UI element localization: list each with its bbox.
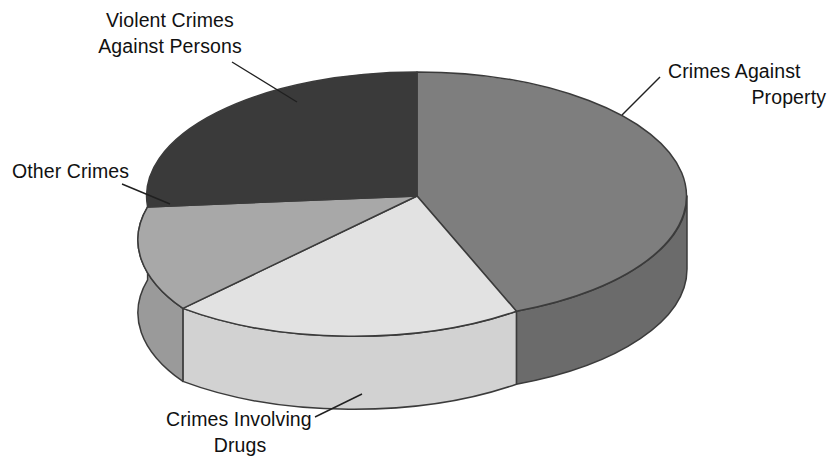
violent-crimes-label-line2: Against Persons xyxy=(98,35,242,57)
violent-crimes-label-line1: Violent Crimes xyxy=(106,9,234,31)
crimes-involving-drugs-label-line2: Drugs xyxy=(214,434,267,456)
callout-label-other-crimes: Other Crimes xyxy=(12,160,129,182)
other-crimes-label-line1: Other Crimes xyxy=(12,160,129,182)
crimes-involving-drugs-label-line1: Crimes Involving xyxy=(166,408,312,430)
crimes-against-property-label-line2: Property xyxy=(752,86,827,108)
callout-label-violent-crimes: Violent Crimes Against Persons xyxy=(98,9,242,57)
pie-chart-figure: Violent Crimes Against Persons Crimes Ag… xyxy=(0,0,836,469)
callout-label-crimes-against-property: Crimes Against Property xyxy=(668,60,826,108)
pie-chart-canvas: Violent Crimes Against Persons Crimes Ag… xyxy=(0,0,836,469)
crimes-against-property-label-line1: Crimes Against xyxy=(668,60,801,82)
leader-line-crimes-against-property xyxy=(622,77,660,115)
callout-label-crimes-involving-drugs: Crimes Involving Drugs xyxy=(166,408,312,456)
